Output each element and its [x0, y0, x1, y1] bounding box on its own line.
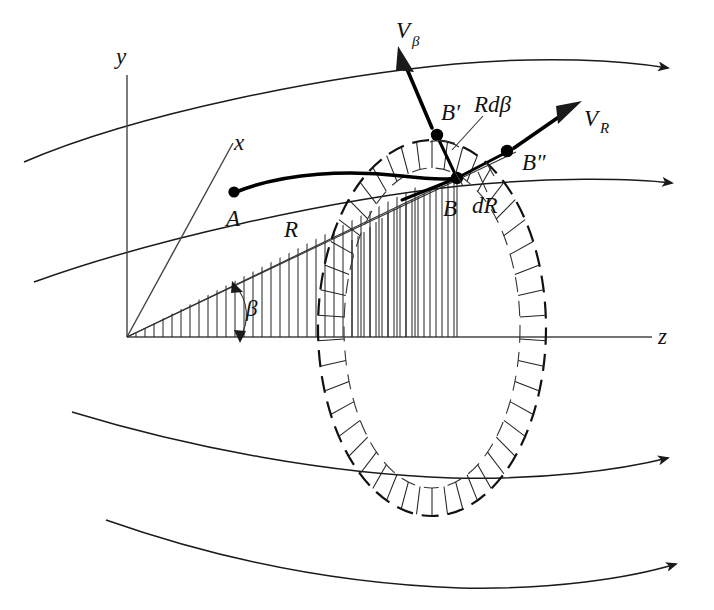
annulus-rung: [478, 465, 492, 489]
label-point-B-prime: B′: [441, 100, 461, 125]
annulus-rung: [373, 465, 387, 489]
annulus-rung: [520, 339, 546, 341]
annulus-rung: [339, 420, 360, 436]
annulus-rung: [520, 315, 546, 317]
streamline-3: [72, 412, 668, 478]
label-group: y x z A B B′ B″ R Rdβ dR β V β V R: [114, 18, 667, 349]
annulus-rung: [373, 167, 387, 191]
annulus-rung: [401, 147, 408, 174]
annulus-rung: [504, 220, 525, 236]
annulus-rung: [515, 265, 540, 274]
label-x-axis: x: [233, 130, 245, 155]
annulus-rung: [488, 452, 504, 474]
annulus-rung: [360, 182, 376, 204]
label-v-r-subscript: R: [599, 120, 609, 136]
annulus-rung: [325, 382, 350, 391]
label-z-axis: z: [657, 324, 667, 349]
annulus-rung: [510, 402, 533, 415]
label-point-B-double-prime: B″: [522, 150, 546, 175]
label-vector-v-beta: V β: [396, 18, 420, 49]
annulus-rung: [496, 437, 515, 456]
label-v-r-main: V: [584, 106, 601, 131]
point-Bp-marker: [431, 129, 443, 141]
annulus-rung: [478, 167, 492, 191]
segment-B-to-Bpp: [457, 152, 507, 178]
annulus-rung: [504, 420, 525, 436]
annulus-rung: [417, 142, 421, 170]
annulus-rung: [318, 315, 344, 317]
vector-v-beta-shaft: [404, 62, 432, 128]
annulus-rung: [331, 402, 354, 415]
sector-hatch-region: [352, 142, 454, 337]
annulus-rung: [349, 200, 368, 219]
annulus-rung: [518, 290, 543, 296]
label-angle-beta: β: [245, 296, 258, 321]
annulus-rung: [515, 382, 540, 391]
diagram-svg: y x z A B B′ B″ R Rdβ dR β V β V R: [0, 0, 714, 610]
diagram-canvas: y x z A B B′ B″ R Rdβ dR β V β V R: [0, 0, 714, 610]
annulus-rung: [401, 482, 408, 509]
annulus-rung: [456, 147, 463, 174]
label-v-beta-subscript: β: [411, 33, 420, 49]
label-dR: dR: [472, 193, 498, 218]
annulus-rung: [360, 452, 376, 474]
annulus-rung: [417, 487, 421, 515]
annulus-rung: [444, 487, 448, 515]
annulus-rung: [496, 200, 515, 219]
label-point-A: A: [224, 206, 241, 231]
annulus-rung: [320, 361, 345, 367]
label-vector-v-r: V R: [584, 106, 609, 136]
annulus-rung: [325, 265, 350, 274]
vector-v-r-head: [556, 101, 582, 124]
annulus-rung: [318, 339, 344, 341]
annulus-rung: [320, 290, 345, 296]
label-v-beta-main: V: [396, 18, 413, 43]
trajectory-A-to-B: [236, 173, 457, 192]
b-points-group: [402, 129, 513, 200]
annulus-rung: [387, 475, 397, 501]
label-point-B: B: [443, 196, 457, 221]
annulus-rung: [518, 361, 543, 367]
point-Bpp-marker: [501, 145, 513, 157]
label-arc-Rdbeta: Rdβ: [473, 92, 512, 117]
label-y-axis: y: [114, 44, 127, 69]
annulus-rung: [456, 482, 463, 509]
axis-group: [127, 75, 652, 337]
vector-v-beta-head: [396, 46, 414, 72]
streamline-group: [24, 60, 676, 589]
annulus-rung: [510, 242, 533, 255]
label-radius-R: R: [283, 217, 298, 242]
point-A-marker: [228, 186, 239, 197]
annulus-rung: [387, 156, 397, 182]
streamline-4: [106, 520, 676, 588]
angle-beta-arc: [236, 287, 246, 337]
annulus-rung: [349, 437, 368, 456]
